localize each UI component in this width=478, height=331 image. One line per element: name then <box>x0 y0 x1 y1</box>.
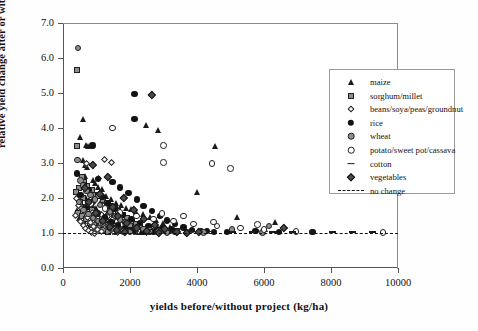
x-axis-tick <box>264 268 265 273</box>
x-axis-tick <box>130 268 131 273</box>
legend-marker-dash <box>343 157 359 171</box>
y-axis-tick <box>58 128 63 129</box>
y-axis-tick-label: 4.0 <box>23 123 54 134</box>
data-point-rice <box>164 217 170 223</box>
legend-item-beans-soya-peas-groundnut[interactable]: beans/soya/peas/groundnut <box>330 102 456 116</box>
data-point-potato-sweet-pot-cassava <box>261 226 268 233</box>
x-axis-tick <box>197 268 198 273</box>
data-point-potato-sweet-pot-cassava <box>102 205 109 212</box>
data-point-potato-sweet-pot-cassava <box>160 159 167 166</box>
data-point-maize <box>143 122 149 128</box>
y-axis-tick-label: 2.0 <box>23 193 54 204</box>
legend-item-potato-sweet-pot-cassava[interactable]: potato/sweet pot/cassava <box>330 143 456 157</box>
legend-marker-open-diamond <box>343 102 359 116</box>
legend-marker-open-circle <box>343 143 359 157</box>
legend-label: maize <box>370 76 391 88</box>
data-point-maize <box>212 143 218 149</box>
data-point-maize <box>194 189 200 195</box>
x-axis-tick <box>331 268 332 273</box>
y-axis-tick <box>58 23 63 24</box>
legend-label: wheat <box>370 130 391 142</box>
x-axis-tick-label: 6000 <box>234 278 294 289</box>
legend-label: potato/sweet pot/cassava <box>370 144 455 156</box>
legend-label: cotton <box>370 158 391 170</box>
data-point-potato-sweet-pot-cassava <box>254 221 261 228</box>
y-axis-label: relative yield change after or with proj… <box>0 0 7 148</box>
data-point-sorghum-millet <box>74 67 80 73</box>
y-axis-tick <box>58 198 63 199</box>
data-point-potato-sweet-pot-cassava <box>160 142 167 149</box>
y-axis-tick <box>58 93 63 94</box>
no-change-reference-line <box>63 233 398 234</box>
legend-item-maize[interactable]: maize <box>330 75 456 89</box>
data-point-rice <box>131 91 137 97</box>
legend-marker-dashed-line <box>338 190 364 191</box>
legend-marker-dark-diamond <box>343 170 359 184</box>
x-axis-tick-label: 8000 <box>301 278 361 289</box>
legend-item-vegetables[interactable]: vegetables <box>330 170 456 184</box>
legend: maizesorghum/milletbeans/soya/peas/groun… <box>329 69 455 194</box>
x-axis-label: yields before/without project (kg/ha) <box>0 300 478 312</box>
x-axis-tick <box>398 268 399 273</box>
x-axis-tick-label: 0 <box>33 278 93 289</box>
data-point-rice <box>74 170 80 176</box>
legend-label: sorghum/millet <box>370 90 422 102</box>
legend-item-sorghum-millet[interactable]: sorghum/millet <box>330 89 456 103</box>
data-point-maize <box>80 116 86 122</box>
y-axis-tick-label: 1.0 <box>23 228 54 239</box>
x-axis-tick <box>63 268 64 273</box>
legend-marker-filled-circle <box>343 116 359 130</box>
x-axis-tick-label: 4000 <box>167 278 227 289</box>
legend-item-rice[interactable]: rice <box>330 116 456 130</box>
legend-item-wheat[interactable]: wheat <box>330 129 456 143</box>
data-point-sorghum-millet <box>74 143 80 149</box>
y-axis-tick-label: 6.0 <box>23 53 54 64</box>
data-point-potato-sweet-pot-cassava <box>190 221 197 228</box>
data-point-maize <box>77 134 83 140</box>
legend-label: beans/soya/peas/groundnut <box>370 103 463 115</box>
plot-frame-top <box>63 23 398 24</box>
data-point-rice <box>140 203 146 209</box>
y-axis-tick <box>58 58 63 59</box>
legend-label: no change <box>370 185 405 197</box>
legend-item-cotton[interactable]: cotton <box>330 157 456 171</box>
legend-marker-filled-triangle <box>343 75 359 89</box>
data-point-maize <box>272 219 278 225</box>
data-point-potato-sweet-pot-cassava <box>227 165 234 172</box>
data-point-rice <box>134 196 140 202</box>
legend-label: vegetables <box>370 171 406 183</box>
data-point-rice <box>77 192 83 198</box>
legend-marker-gray-square <box>343 89 359 103</box>
x-axis-tick-label: 2000 <box>100 278 160 289</box>
x-axis-tick-label: 10000 <box>368 278 428 289</box>
data-point-maize <box>234 214 240 220</box>
data-point-maize <box>155 127 161 133</box>
data-point-rice <box>89 142 95 148</box>
legend-item-no-change[interactable]: no change <box>330 184 456 198</box>
y-axis-tick-label: 5.0 <box>23 88 54 99</box>
chart-figure: 0.01.02.03.04.05.06.07.0 020004000600080… <box>0 0 478 331</box>
data-point-potato-sweet-pot-cassava <box>210 219 217 226</box>
data-point-rice <box>125 190 131 196</box>
y-axis-tick <box>58 163 63 164</box>
data-point-potato-sweet-pot-cassava <box>109 125 116 132</box>
y-axis-tick-label: 3.0 <box>23 158 54 169</box>
y-axis-tick-label: 7.0 <box>23 18 54 29</box>
data-point-rice <box>117 184 123 190</box>
y-axis-tick-label: 0.0 <box>23 263 54 274</box>
legend-marker-gray-circle <box>343 129 359 143</box>
legend-label: rice <box>370 117 383 129</box>
data-point-potato-sweet-pot-cassava <box>159 210 166 217</box>
